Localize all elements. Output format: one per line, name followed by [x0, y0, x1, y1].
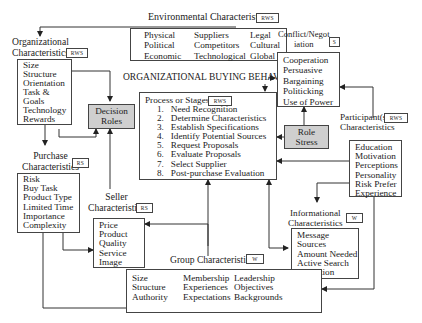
organizational-box: Size Structure Orientation Task & Goals …	[17, 59, 72, 125]
conflict-box: Cooperation Persuasive Bargaining Politi…	[277, 52, 340, 107]
decision-roles-box: Decision Roles	[88, 104, 135, 129]
environmental-col2: Suppliers Competitors Technological	[194, 30, 246, 61]
informational-tag: W	[346, 213, 363, 223]
purchase-label: Purchase Characteristics	[22, 151, 79, 172]
environmental-box: Physical Political Economic Suppliers Co…	[130, 28, 287, 61]
environmental-tag: RWS	[256, 13, 279, 23]
process-steps: 1. Need Recognition 2. Determine Charact…	[157, 105, 266, 178]
process-box: Process or Stages RWS 1. Need Recognitio…	[139, 92, 277, 180]
organizational-label: Organizational Characteristics	[12, 37, 69, 58]
participants-box: Education Motivation Perceptions Persona…	[349, 140, 402, 197]
purchase-box: Risk Buy Task Product Type Limited Time …	[17, 173, 80, 233]
diagram-title: ORGANIZATIONAL BUYING BEHAVIOR	[123, 72, 296, 83]
group-box: Size Structure Authority Membership Expe…	[126, 269, 322, 313]
informational-label: Informational Characteristics	[288, 209, 343, 228]
conflict-tag: S	[329, 37, 340, 47]
environmental-col3: Legal Cultural Global	[250, 30, 280, 61]
seller-tag: RS	[136, 203, 153, 213]
organizational-tag: RWS	[66, 48, 88, 58]
seller-box: Price Product Quality Service Image	[93, 218, 145, 268]
role-stress-box: Role Stress	[284, 125, 329, 149]
environmental-label: Environmental Characteristics	[148, 12, 269, 23]
environmental-col1: Physical Political Economic	[144, 30, 181, 61]
conflict-label: Conflict/Negot iation	[278, 30, 330, 49]
group-tag: W	[246, 254, 264, 264]
purchase-tag: RS	[72, 158, 89, 168]
group-label: Group Characteristics	[170, 255, 254, 266]
participants-tag: RWS	[384, 113, 408, 123]
